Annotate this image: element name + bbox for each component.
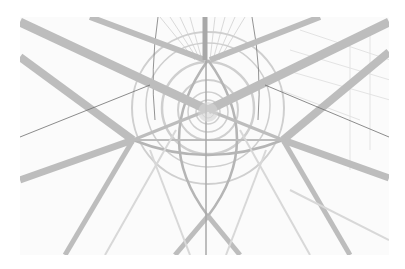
structure-illustration: [20, 17, 389, 255]
architecture-photo: Looking up inside a steel structure with…: [20, 17, 389, 255]
